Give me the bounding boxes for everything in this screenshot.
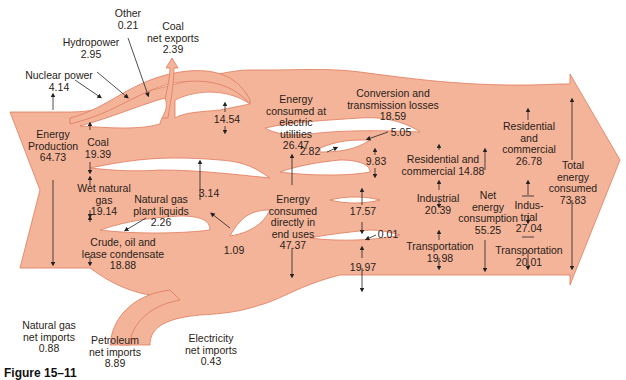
label-transport-total: Transportation 20.01 bbox=[490, 245, 568, 268]
label-elec-imports: Electricity net imports 0.43 bbox=[183, 333, 239, 368]
label-ngpl: Natural gas plant liquids 2.26 bbox=[128, 194, 194, 229]
label-production: Energy Production 64.73 bbox=[22, 129, 84, 164]
label-crude: Crude, oil and lease condensate 18.88 bbox=[78, 237, 168, 272]
label-1-09: 1.09 bbox=[220, 245, 248, 257]
figure-caption: Figure 15–11 bbox=[4, 366, 77, 380]
label-total: Total energy consumed 73.83 bbox=[546, 160, 600, 206]
label-res-com: Residential and commercial 14.88 bbox=[398, 154, 488, 177]
label-direct: Energy consumed directly in end uses 47.… bbox=[264, 194, 322, 252]
label-0-01: 0.01 bbox=[374, 229, 402, 241]
label-9-83: 9.83 bbox=[362, 156, 390, 168]
label-nuclear: Nuclear power 4.14 bbox=[20, 70, 98, 93]
label-3-14: 3.14 bbox=[195, 188, 223, 200]
label-coal-exports: Coal net exports 2.39 bbox=[143, 21, 203, 56]
label-5-05: 5.05 bbox=[386, 127, 416, 139]
label-wet-gas: Wet natural gas 19.14 bbox=[73, 183, 135, 218]
label-14-54: 14.54 bbox=[210, 114, 244, 126]
label-petro-imports: Petroleum net imports 8.89 bbox=[86, 335, 144, 370]
label-2-82: 2.82 bbox=[295, 146, 325, 158]
label-losses: Conversion and transmission losses 18.59 bbox=[333, 88, 453, 123]
label-other: Other 0.21 bbox=[113, 8, 143, 31]
label-utilities: Energy consumed at electric utilities 26… bbox=[260, 94, 332, 152]
label-17-57: 17.57 bbox=[348, 206, 378, 218]
label-coal: Coal 19.39 bbox=[80, 137, 116, 160]
label-hydropower: Hydropower 2.95 bbox=[60, 37, 122, 60]
label-transport: Transportation 19.98 bbox=[400, 241, 480, 264]
label-ng-imports: Natural gas net imports 0.88 bbox=[18, 320, 80, 355]
label-19-97: 19.97 bbox=[348, 262, 378, 274]
label-indus-total: Indus- trial 27.04 bbox=[512, 200, 546, 235]
